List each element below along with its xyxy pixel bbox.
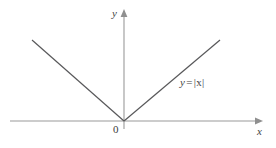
curve-equation-operator: = xyxy=(185,76,194,88)
plot-canvas xyxy=(0,0,276,148)
graph-figure: y x 0 y=|x| xyxy=(0,0,276,148)
curve-left-branch xyxy=(32,40,124,121)
curve-equation-label: y=|x| xyxy=(180,77,205,88)
y-axis-label: y xyxy=(112,8,117,19)
x-axis-arrowhead xyxy=(255,118,263,125)
curve-right-branch xyxy=(124,40,220,121)
curve-equation-expression: |x| xyxy=(194,76,205,88)
y-axis-arrowhead xyxy=(121,9,128,17)
origin-label: 0 xyxy=(113,124,119,135)
x-axis-label: x xyxy=(257,126,262,137)
